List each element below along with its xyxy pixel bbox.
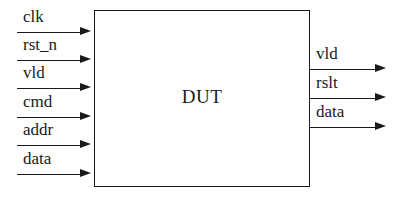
- output-arrow-vld: [375, 64, 386, 72]
- dut-block-diagram: DUT clk rst_n vld cmd addr data vld rslt…: [0, 0, 397, 203]
- dut-block-label: DUT: [94, 86, 310, 108]
- input-arrow-clk: [80, 27, 91, 35]
- input-label-vld: vld: [23, 64, 45, 81]
- output-line-data: [310, 127, 375, 128]
- output-label-data: data: [316, 103, 344, 120]
- input-line-vld: [17, 88, 80, 89]
- input-arrow-vld: [80, 83, 91, 91]
- input-label-data: data: [23, 150, 51, 167]
- output-arrow-rslt: [375, 93, 386, 101]
- input-arrow-cmd: [80, 112, 91, 120]
- input-label-clk: clk: [23, 8, 44, 25]
- input-line-cmd: [17, 117, 80, 118]
- input-arrow-addr: [80, 140, 91, 148]
- output-line-vld: [310, 69, 375, 70]
- input-line-data: [17, 174, 80, 175]
- input-arrow-rst-n: [80, 55, 91, 63]
- input-line-rst-n: [17, 60, 80, 61]
- input-line-addr: [17, 145, 80, 146]
- output-line-rslt: [310, 98, 375, 99]
- input-label-addr: addr: [23, 121, 53, 138]
- output-label-rslt: rslt: [316, 74, 338, 91]
- output-label-vld: vld: [316, 45, 338, 62]
- input-arrow-data: [80, 169, 91, 177]
- input-label-cmd: cmd: [23, 93, 52, 110]
- input-label-rst-n: rst_n: [23, 36, 57, 53]
- input-line-clk: [17, 32, 80, 33]
- output-arrow-data: [375, 122, 386, 130]
